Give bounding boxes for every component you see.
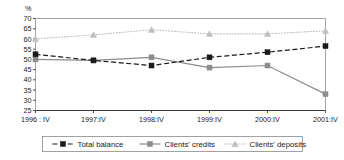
legend-item-label: Total balance	[78, 140, 124, 149]
data-point-marker	[265, 63, 270, 68]
y-tick-label: 35	[24, 86, 32, 95]
y-tick-label: 45	[24, 65, 32, 74]
series-line	[36, 57, 326, 94]
y-tick-label: 40	[24, 75, 32, 84]
data-point-marker	[61, 142, 66, 147]
y-tick-label: 55	[24, 45, 32, 54]
legend-item-label: Clients' deposits	[250, 140, 307, 149]
legend: Total balanceClients' creditsClients' de…	[43, 137, 307, 152]
y-tick-label: 30	[24, 96, 32, 105]
data-point-marker	[265, 50, 270, 55]
y-tick-label: 65	[24, 24, 32, 33]
line-chart: 70656055504540353025%1996 : IV1997:IV199…	[0, 0, 344, 160]
data-point-marker	[207, 65, 212, 70]
series-clients-deposits	[32, 27, 328, 42]
series-total-balance	[33, 44, 328, 68]
x-tick-label: 1998:IV	[139, 115, 164, 124]
data-point-marker	[91, 58, 96, 63]
data-point-marker	[148, 142, 153, 147]
x-tick-label: 1996 : IV	[21, 115, 50, 124]
x-tick-label: 1997:IV	[81, 115, 106, 124]
y-tick-label: 60	[24, 35, 32, 44]
data-point-marker	[149, 63, 154, 68]
y-axis-unit-label: %	[25, 4, 32, 13]
chart-container: 70656055504540353025%1996 : IV1997:IV199…	[0, 0, 344, 160]
x-tick-label: 2000:IV	[255, 115, 280, 124]
y-tick-label: 70	[24, 14, 32, 23]
y-axis: 70656055504540353025	[24, 14, 36, 115]
data-point-marker	[33, 57, 38, 62]
data-point-marker	[149, 55, 154, 60]
data-point-marker	[323, 44, 328, 49]
data-point-marker	[323, 92, 328, 97]
y-tick-label: 50	[24, 55, 32, 64]
series-line	[36, 30, 326, 39]
data-point-marker	[33, 52, 38, 57]
x-axis: 1996 : IV1997:IV1998:IV1999:IV2000:IV200…	[21, 111, 338, 124]
x-tick-label: 1999:IV	[197, 115, 222, 124]
data-point-marker	[207, 55, 212, 60]
x-tick-label: 2001:IV	[313, 115, 338, 124]
legend-item-label: Clients' credits	[165, 140, 216, 149]
